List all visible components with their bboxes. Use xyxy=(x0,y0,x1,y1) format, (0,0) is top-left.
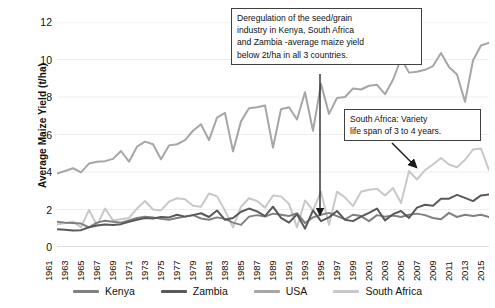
x-tick-label-1995: 1995 xyxy=(315,261,326,281)
x-tick-label-1987: 1987 xyxy=(251,261,262,281)
x-tick-label-2005: 2005 xyxy=(395,261,406,281)
maize-yield-line-chart: Average Maize Yield (t/ha) 024681012 196… xyxy=(0,0,495,308)
annotation-deregulation-line-2: industry in Kenya, South Africa xyxy=(237,24,416,36)
legend-item-south-africa[interactable]: South Africa xyxy=(333,285,422,297)
legend-item-kenya[interactable]: Kenya xyxy=(73,285,135,297)
annotation-deregulation-line-4: below 2t/ha in all 3 countries. xyxy=(237,49,416,61)
x-tick-label-1993: 1993 xyxy=(299,261,310,281)
y-tick-label-10: 10 xyxy=(22,54,52,66)
legend-swatch-usa xyxy=(254,290,280,293)
legend-swatch-kenya xyxy=(73,290,99,293)
x-tick-label-1989: 1989 xyxy=(267,261,278,281)
annotation-deregulation-line-3: and Zambia -average maize yield xyxy=(237,36,416,48)
annotation-deregulation-line-1: Deregulation of the seed/grain xyxy=(237,12,416,24)
legend-label-usa: USA xyxy=(286,285,308,297)
y-tick-label-8: 8 xyxy=(22,91,52,103)
x-tick-label-2015: 2015 xyxy=(475,261,486,281)
legend-label-zambia: Zambia xyxy=(193,285,228,297)
x-tick-label-1983: 1983 xyxy=(219,261,230,281)
x-tick-label-1971: 1971 xyxy=(123,261,134,281)
x-tick-label-1967: 1967 xyxy=(91,261,102,281)
legend-label-kenya: Kenya xyxy=(105,285,135,297)
y-tick-label-2: 2 xyxy=(22,204,52,216)
x-tick-label-1973: 1973 xyxy=(139,261,150,281)
legend-swatch-south-africa xyxy=(333,290,359,293)
x-tick-label-1969: 1969 xyxy=(107,261,118,281)
series-line-zambia xyxy=(57,195,489,231)
legend-item-zambia[interactable]: Zambia xyxy=(161,285,228,297)
x-tick-label-2001: 2001 xyxy=(363,261,374,281)
x-tick-label-1977: 1977 xyxy=(171,261,182,281)
x-tick-label-2003: 2003 xyxy=(379,261,390,281)
annotation-south-africa-line-1: South Africa: Variety xyxy=(350,113,475,125)
legend-item-usa[interactable]: USA xyxy=(254,285,308,297)
x-tick-label-1985: 1985 xyxy=(235,261,246,281)
x-tick-label-1975: 1975 xyxy=(155,261,166,281)
x-tick-label-1961: 1961 xyxy=(43,261,54,281)
x-axis: 1961196319651967196919711973197519771979… xyxy=(57,249,489,281)
x-tick-label-1963: 1963 xyxy=(59,261,70,281)
x-tick-label-1979: 1979 xyxy=(187,261,198,281)
x-tick-label-1997: 1997 xyxy=(331,261,342,281)
y-tick-label-4: 4 xyxy=(22,166,52,178)
legend-label-south-africa: South Africa xyxy=(365,285,422,297)
annotation-south-africa-line-2: life span of 3 to 4 years. xyxy=(350,125,475,137)
x-tick-label-1981: 1981 xyxy=(203,261,214,281)
legend: KenyaZambiaUSASouth Africa xyxy=(0,281,495,301)
x-tick-label-1991: 1991 xyxy=(283,261,294,281)
legend-swatch-zambia xyxy=(161,290,187,293)
x-tick-label-2011: 2011 xyxy=(443,261,454,281)
x-tick-label-1965: 1965 xyxy=(75,261,86,281)
x-tick-label-1999: 1999 xyxy=(347,261,358,281)
x-tick-label-2013: 2013 xyxy=(459,261,470,281)
annotation-deregulation: Deregulation of the seed/grain industry … xyxy=(231,8,422,65)
y-tick-label-0: 0 xyxy=(22,241,52,253)
x-tick-label-2007: 2007 xyxy=(411,261,422,281)
annotation-south-africa-variety: South Africa: Variety life span of 3 to … xyxy=(344,109,481,141)
y-tick-label-6: 6 xyxy=(22,129,52,141)
y-tick-label-12: 12 xyxy=(22,16,52,28)
x-tick-label-2009: 2009 xyxy=(427,261,438,281)
